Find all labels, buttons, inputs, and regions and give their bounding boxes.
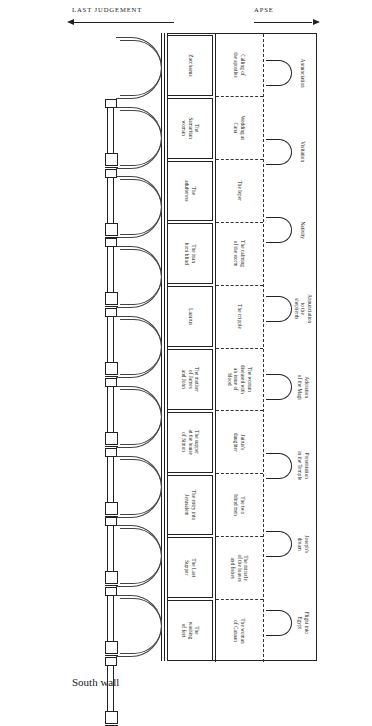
fresco-cell: The cripple [216,286,263,349]
fresco-label: The twoblind men [233,495,246,516]
column-shaft [108,107,115,154]
fresco-cell: The miracleof the loavesand fishes [216,537,263,600]
fresco-cell: The calmingof the storm [216,223,263,286]
column-base [105,641,118,654]
fresco-label: The manborn blind [184,243,197,265]
arched-window [266,610,292,636]
apse-label: APSE [254,6,274,13]
fresco-label: The calmingof the storm [233,240,246,267]
column-base [105,432,118,445]
fresco-registers: AnnunciationVisitationNativityAnnunciati… [167,33,317,661]
fresco-label: Visitation [300,141,307,162]
fresco-cell: Zacchaeus [168,35,214,96]
fresco-label: The miracleof the loavesand fishes [230,555,250,582]
column-shaft [108,595,115,642]
column-shaft [108,316,115,363]
fresco-cell: The manborn blind [168,223,214,284]
last-judgement-arrow-head [67,19,74,25]
column-base [105,711,118,724]
fresco-label: The motherof Jamesand John [181,367,201,392]
column-base [105,153,118,166]
fresco-cell: Wedding atCana [216,97,263,160]
arcade-arch-inner [120,110,162,166]
last-judgement-label: LAST JUDGEMENT [72,6,142,13]
fresco-label: Lazarus [187,308,194,325]
wall-elevation: AnnunciationVisitationNativityAnnunciati… [35,33,317,661]
fresco-label: Flight intoEgypt [296,612,309,634]
fresco-label: Adorationof the Magi [296,375,309,400]
fresco-label: The womandiseased withan issue ofblood [226,365,252,394]
arched-window [266,453,292,479]
arched-window [266,139,292,165]
fresco-cell: The supperat the houseof Simon [168,412,214,473]
fresco-cell: Lazarus [168,286,214,347]
arched-window [266,296,292,322]
south-wall-label: South wall [72,676,119,688]
fresco-label: The supperat the houseof Simon [181,429,201,455]
fresco-label: The womanof Canaan [233,619,246,644]
column-base [105,292,118,305]
fresco-cell: Calling ofthe apostles [216,34,263,97]
apse-axis-line [254,22,312,23]
column-base [105,223,118,236]
column-shaft [108,456,115,503]
fresco-cell: Thewashingof feet [168,600,214,661]
fresco-cell: The LastSupper [168,537,214,598]
fresco-label: Wedding atCana [233,116,246,140]
fresco-label: Annunciation [300,59,307,88]
column-shaft [108,386,115,433]
apse-arrow-head [313,19,320,25]
fresco-cell: Jairus'sdaughter [216,411,263,474]
nave-arcade [35,33,165,661]
fresco-cell: The womanof Canaan [216,600,263,662]
fresco-label: The cripple [236,304,243,328]
fresco-label: Annunciationto theshepherds [293,294,313,323]
fresco-label: Theadulteress [184,180,197,201]
fresco-label: The LastSupper [184,558,197,577]
fresco-label: Jairus'sdaughter [233,433,246,452]
arcade-springline-outer [164,33,165,661]
column-shaft [108,665,115,712]
fresco-label: Joseph'sdream [296,535,309,553]
fresco-label: Thewashingof feet [181,622,201,640]
fresco-label: TheSamaritanwoman [181,117,201,139]
fresco-cell: The entry intoJerusalem [168,475,214,536]
fresco-cell: The leper [216,160,263,223]
fresco-cell: TheSamaritanwoman [168,98,214,159]
register-row-middle: Calling ofthe apostlesWedding atCanaThe … [216,34,264,662]
column-base [105,502,118,515]
arcade-arch-inner [120,389,162,445]
last-judgement-axis-line [74,22,174,23]
column-base [105,571,118,584]
fresco-cell: The motherof Jamesand John [168,349,214,410]
fresco-cell: The womandiseased withan issue ofblood [216,349,263,412]
fresco-cell: Theadulteress [168,161,214,222]
fresco-label: Zacchaeus [187,54,194,76]
fresco-label: Calling ofthe apostles [233,52,246,77]
fresco-label: The entry intoJerusalem [184,490,197,520]
register-row-upper: AnnunciationVisitationNativityAnnunciati… [264,34,316,662]
register-row-lower: ZacchaeusTheSamaritanwomanTheadulteressT… [166,34,216,662]
fresco-label: The leper [236,181,243,201]
column-shaft [108,246,115,293]
arcade-arch-inner [120,459,162,515]
column-shaft [108,525,115,572]
fresco-label: Nativity [300,222,307,240]
fresco-label: Presentationin the Temple [296,451,309,480]
fresco-cell: The twoblind men [216,474,263,537]
column-base [105,362,118,375]
column-shaft [108,177,115,224]
